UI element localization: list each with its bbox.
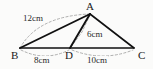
geometry-figure: A B D C 12cm 6cm 8cm 10cm: [0, 0, 153, 69]
vertex-label-A: A: [86, 1, 94, 12]
measure-label-AD: 6cm: [86, 30, 104, 39]
vertex-label-B: B: [11, 50, 18, 61]
figure-canvas: [0, 0, 153, 69]
vertex-label-D: D: [65, 50, 73, 61]
measure-label-DC: 10cm: [86, 56, 108, 65]
vertex-label-C: C: [138, 50, 145, 61]
measure-label-BD: 8cm: [33, 56, 51, 65]
measure-label-BA: 12cm: [22, 14, 44, 23]
